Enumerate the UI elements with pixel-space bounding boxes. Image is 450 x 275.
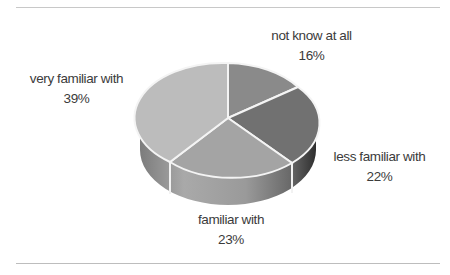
label-name: very familiar with	[14, 69, 139, 89]
label-value: 23%	[176, 230, 286, 250]
label-name: familiar with	[176, 210, 286, 230]
label-name: less familiar with	[322, 147, 437, 167]
label-name: not know at all	[254, 26, 369, 46]
label-value: 22%	[322, 167, 437, 187]
data-label-less-familiar-with: less familiar with 22%	[322, 147, 437, 187]
data-label-not-know-at-all: not know at all 16%	[254, 26, 369, 66]
data-label-very-familiar-with: very familiar with 39%	[14, 69, 139, 109]
label-value: 39%	[14, 89, 139, 109]
data-label-familiar-with: familiar with 23%	[176, 210, 286, 250]
label-value: 16%	[254, 46, 369, 66]
